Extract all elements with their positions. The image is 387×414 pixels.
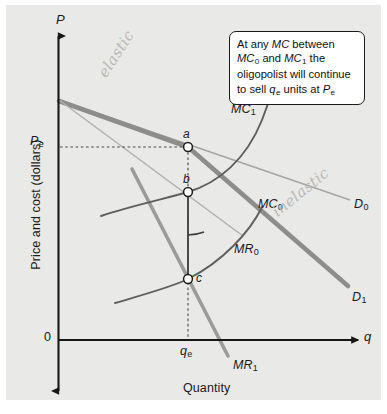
callout-mc0-symbol: MC — [237, 52, 254, 64]
mr0-subscript: 0 — [253, 247, 258, 257]
curve-label-d0: D0 — [354, 198, 368, 212]
mr1-subscript: 1 — [252, 363, 257, 373]
point-label-b: b — [183, 173, 190, 186]
y-axis-tick-label-pe: Pe — [30, 135, 44, 149]
d1-subscript: 1 — [361, 295, 366, 305]
mr1-symbol: MR — [233, 358, 252, 372]
x-axis-tick-label-qe: qe — [180, 345, 192, 359]
callout-mc-symbol: MC — [272, 38, 289, 50]
qe-symbol: q — [180, 344, 187, 358]
curve-label-mc1: MC1 — [231, 103, 256, 117]
point-label-a: a — [183, 128, 190, 141]
equilibrium-point-b — [184, 188, 193, 197]
callout-line4-mid: units at — [280, 83, 322, 95]
callout-text: At any MC between MC0 and MC1 the oligop… — [237, 37, 357, 98]
callout-mc0-subscript: 0 — [254, 57, 259, 66]
callout-line1-prefix: At any — [237, 38, 272, 50]
curve-label-d1: D1 — [352, 291, 366, 305]
y-axis-title: Price and cost (dollars) — [30, 130, 43, 280]
d0-symbol: D — [354, 197, 363, 211]
curve-label-mr1: MR1 — [233, 359, 258, 373]
mc1-subscript: 1 — [250, 107, 255, 117]
callout-line2-prefix: and — [262, 52, 284, 64]
callout-line1-mid: between — [289, 38, 334, 50]
callout-mc1-symbol: MC — [284, 52, 301, 64]
equilibrium-point-a — [184, 143, 193, 152]
x-axis-symbol-label: q — [364, 330, 371, 344]
point-label-c: c — [196, 272, 202, 285]
x-axis-title: Quantity — [183, 382, 230, 395]
origin-label: 0 — [44, 331, 51, 344]
pe-subscript: e — [38, 139, 43, 149]
qe-subscript: e — [187, 349, 192, 359]
curve-label-mr0: MR0 — [234, 243, 259, 257]
callout-q-symbol: q — [269, 83, 275, 95]
kinked-demand-curve-figure: Price and cost (dollars) Quantity P q 0 … — [0, 0, 387, 414]
d1-symbol: D — [352, 290, 361, 304]
callout-p-subscript: e — [330, 88, 335, 97]
mr0-symbol: MR — [234, 242, 253, 256]
d0-subscript: 0 — [363, 202, 368, 212]
y-axis-symbol-label: P — [56, 13, 65, 27]
equilibrium-point-c — [184, 275, 193, 284]
explanatory-callout-box: At any MC between MC0 and MC1 the oligop… — [229, 31, 365, 105]
